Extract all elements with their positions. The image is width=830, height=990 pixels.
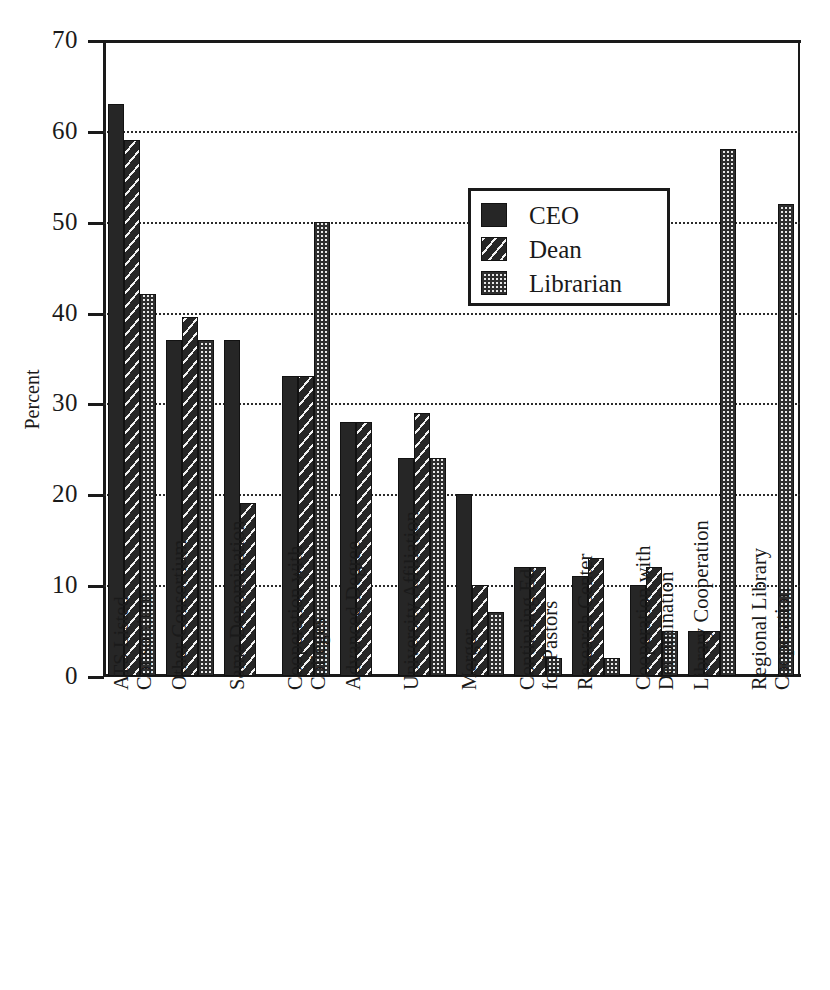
legend-label-ceo: CEO [529,203,579,228]
y-tick-mark [88,313,104,316]
x-tick-label: Same Denomination [226,520,249,690]
legend-swatch-dean [481,237,507,261]
chart-legend: CEO Dean Librarian [468,188,670,306]
gridline [104,131,800,133]
y-tick-mark [88,131,104,134]
legend-swatch-ceo [481,203,507,227]
x-tick-label: Cooperation withDenomination [632,545,678,690]
legend-item: CEO [481,198,667,232]
y-tick-label: 60 [18,118,78,143]
y-tick-mark [88,40,104,43]
gridline [104,313,800,315]
y-tick-label: 10 [18,572,78,597]
gridline [104,222,800,224]
bar-chart-figure: Percent 010203040506070 ATS ListedConsor… [0,0,830,990]
bar-librarian [720,149,736,676]
x-tick-label: Research Center [574,554,597,690]
x-tick-label: ATS ListedConsortium [110,592,156,690]
y-tick-mark [88,494,104,497]
y-tick-label: 0 [18,663,78,688]
x-tick-label: Continuing Edfor Pastors [516,569,562,690]
x-tick-label: Merger [458,629,481,690]
x-tick-label: Other Consortium [168,540,191,690]
y-tick-mark [88,222,104,225]
legend-item: Librarian [481,266,667,300]
y-tick-label: 20 [18,481,78,506]
bar-librarian [604,658,620,676]
x-tick-label: Advanced Degree [342,541,365,690]
y-tick-label: 40 [18,300,78,325]
x-tick-label: Library Cooperation [690,520,713,690]
y-tick-label: 70 [18,27,78,52]
y-tick-label: 50 [18,209,78,234]
bar-librarian [198,340,214,676]
x-tick-label: University Affiliation [400,511,423,690]
y-tick-mark [88,585,104,588]
y-tick-label: 30 [18,390,78,415]
legend-swatch-librarian [481,271,507,295]
legend-label-librarian: Librarian [529,271,622,296]
bar-librarian [430,458,446,676]
x-tick-label: Cooperation withColleges [284,545,330,690]
chart-title [0,0,830,6]
legend-label-dean: Dean [529,237,582,262]
x-tick-label: Regional LibraryCooperation [748,548,794,690]
y-tick-mark [88,403,104,406]
bar-ceo [108,104,124,676]
legend-item: Dean [481,232,667,266]
y-tick-mark [88,676,104,679]
bar-librarian [488,612,504,676]
